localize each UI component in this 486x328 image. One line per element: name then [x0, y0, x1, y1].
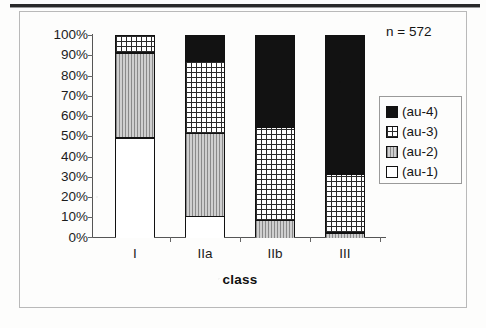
chart-legend: (au-4) (au-3) (au-2) (au-1) [379, 96, 462, 184]
y-tick [88, 157, 93, 158]
bar-segment-au-1 [186, 216, 224, 238]
legend-label-au-4: (au-4) [402, 104, 438, 119]
x-tick-label-III: III [310, 246, 380, 261]
y-tick [88, 96, 93, 97]
segment-divider [186, 60, 224, 62]
y-tick-label: 80% [36, 69, 88, 82]
legend-item-au-4: (au-4) [386, 102, 457, 121]
x-tick [240, 237, 241, 242]
legend-label-au-1: (au-1) [402, 164, 438, 179]
x-tick [170, 237, 171, 242]
segment-divider [116, 52, 154, 54]
segment-divider [186, 133, 224, 135]
bar-segment-au-4 [186, 36, 224, 60]
legend-item-au-1: (au-1) [386, 162, 457, 181]
x-tick-label-I: I [100, 246, 170, 261]
legend-swatch-au-2-icon [386, 146, 398, 158]
bar-segment-au-3 [326, 173, 364, 232]
y-tick-label: 90% [36, 48, 88, 61]
bar-class-I [115, 35, 155, 237]
bar-class-IIa [185, 35, 225, 237]
segment-divider [116, 137, 154, 139]
y-tick [88, 55, 93, 56]
legend-label-au-2: (au-2) [402, 144, 438, 159]
legend-label-au-3: (au-3) [402, 124, 438, 139]
y-tick-label: 0% [36, 231, 88, 244]
bar-segment-au-4 [326, 36, 364, 173]
y-tick-label: 20% [36, 190, 88, 203]
y-tick-label: 30% [36, 170, 88, 183]
y-tick [88, 136, 93, 137]
bar-segment-au-3 [116, 36, 154, 52]
segment-divider [256, 127, 294, 129]
sample-size-note: n = 572 [386, 24, 431, 39]
y-tick [88, 116, 93, 117]
bar-class-III [325, 35, 365, 237]
y-tick-label: 60% [36, 109, 88, 122]
y-tick [88, 197, 93, 198]
x-tick-label-IIb: IIb [240, 246, 310, 261]
y-tick-label: 10% [36, 210, 88, 223]
segment-divider [326, 232, 364, 234]
y-tick-label: 100% [36, 28, 88, 41]
bar-segment-au-2 [116, 52, 154, 137]
segment-divider [186, 216, 224, 218]
bar-segment-au-2 [256, 220, 294, 238]
y-tick-label: 70% [36, 89, 88, 102]
y-tick [88, 237, 93, 238]
bar-segment-au-3 [186, 60, 224, 133]
legend-item-au-3: (au-3) [386, 122, 457, 141]
segment-divider [326, 173, 364, 175]
legend-swatch-au-1-icon [386, 166, 398, 178]
bar-segment-au-1 [116, 137, 154, 238]
bar-segment-au-3 [256, 127, 294, 220]
segment-divider [256, 220, 294, 222]
y-tick [88, 217, 93, 218]
bar-segment-au-4 [256, 36, 294, 127]
bar-class-IIb [255, 35, 295, 237]
y-tick [88, 177, 93, 178]
y-tick [88, 76, 93, 77]
y-axis-tick-labels: 100% 90% 80% 70% 60% 50% 40% 30% 20% 10%… [33, 0, 88, 328]
x-tick [380, 237, 381, 242]
y-tick-label: 40% [36, 150, 88, 163]
legend-swatch-au-4-icon [386, 106, 398, 118]
stacked-bar-chart: 100% 90% 80% 70% 60% 50% 40% 30% 20% 10%… [0, 0, 486, 328]
x-tick [310, 237, 311, 242]
x-tick-label-IIa: IIa [170, 246, 240, 261]
y-tick-label: 50% [36, 129, 88, 142]
scanned-page: 100% 90% 80% 70% 60% 50% 40% 30% 20% 10%… [0, 0, 486, 328]
y-tick [88, 35, 93, 36]
legend-item-au-2: (au-2) [386, 142, 457, 161]
bar-segment-au-2 [186, 133, 224, 216]
x-axis-title: class [150, 272, 330, 287]
legend-swatch-au-3-icon [386, 126, 398, 138]
